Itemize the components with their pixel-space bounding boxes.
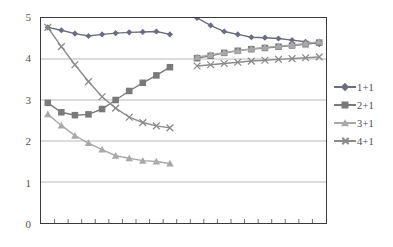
data-point-marker — [58, 43, 65, 50]
series-line — [197, 57, 319, 66]
triangle-marker-icon — [341, 119, 349, 126]
y-tick-label-3: 3 — [26, 94, 32, 105]
legend-swatch — [334, 98, 356, 112]
diamond-marker-icon — [341, 83, 349, 91]
series-1plus1 — [45, 18, 323, 47]
legend-swatch — [334, 80, 356, 94]
data-point-marker — [112, 105, 119, 112]
data-point-marker — [248, 34, 254, 40]
data-point-marker — [221, 28, 227, 34]
data-point-marker — [72, 61, 79, 68]
data-point-marker — [208, 22, 214, 28]
data-point-marker — [58, 109, 65, 116]
data-point-marker — [44, 111, 52, 118]
data-point-marker — [153, 28, 159, 34]
data-point-marker — [112, 97, 119, 104]
legend-item-1plus1[interactable]: 1+1 — [334, 78, 393, 96]
legend-label: 1+1 — [357, 82, 374, 93]
data-point-marker — [140, 80, 147, 87]
data-point-marker — [126, 88, 133, 95]
y-tick-label-5: 5 — [26, 12, 32, 23]
data-point-marker — [85, 78, 92, 85]
data-point-marker — [153, 72, 160, 79]
y-tick-label-4: 4 — [26, 53, 32, 64]
data-point-marker — [85, 111, 92, 118]
cross-marker-icon — [341, 137, 350, 146]
data-point-marker — [275, 35, 281, 41]
series-line — [197, 43, 319, 59]
legend: 1+12+13+14+1 — [334, 78, 393, 150]
data-point-marker — [99, 106, 106, 113]
data-point-marker — [99, 31, 105, 37]
series-line — [197, 42, 319, 57]
data-point-marker — [167, 31, 173, 37]
legend-label: 2+1 — [357, 100, 374, 111]
series-line — [48, 67, 170, 115]
legend-label: 3+1 — [357, 118, 374, 129]
y-tick-label-2: 2 — [26, 136, 32, 147]
series-line — [48, 114, 170, 163]
plot-area — [40, 17, 327, 224]
legend-swatch — [334, 116, 356, 130]
data-point-marker — [126, 114, 133, 121]
data-point-marker — [126, 29, 132, 35]
series-line — [197, 18, 319, 44]
series-line — [48, 27, 170, 36]
square-marker-icon — [342, 102, 349, 109]
legend-item-2plus1[interactable]: 2+1 — [334, 96, 393, 114]
legend-label: 4+1 — [357, 136, 374, 147]
data-point-marker — [99, 93, 106, 100]
y-axis: 543210 — [0, 0, 40, 247]
data-point-marker — [112, 152, 120, 159]
data-point-marker — [98, 146, 106, 153]
data-point-marker — [262, 35, 268, 41]
data-point-marker — [85, 33, 91, 39]
legend-item-4plus1[interactable]: 4+1 — [334, 132, 393, 150]
chart-screenshot: 543210 1+12+13+14+1 — [0, 0, 393, 247]
data-point-marker — [167, 64, 174, 71]
data-point-marker — [235, 31, 241, 37]
data-point-marker — [85, 139, 93, 146]
data-point-marker — [140, 29, 146, 35]
data-point-marker — [113, 30, 119, 36]
y-tick-label-0: 0 — [26, 219, 32, 230]
legend-item-3plus1[interactable]: 3+1 — [334, 114, 393, 132]
legend-swatch — [334, 134, 356, 148]
data-point-marker — [58, 27, 64, 33]
data-point-marker — [72, 31, 78, 37]
data-point-marker — [72, 112, 79, 119]
y-tick-label-1: 1 — [26, 177, 32, 188]
series-layer — [41, 18, 326, 223]
data-point-marker — [45, 100, 52, 107]
